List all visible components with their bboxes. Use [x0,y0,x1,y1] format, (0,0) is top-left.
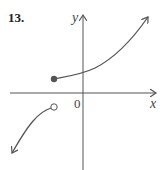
open-endpoint [51,104,57,110]
problem-number: 13. [8,10,24,25]
x-axis-label: x [149,96,157,111]
origin-label: 0 [74,96,81,111]
y-axis-label: y [70,10,79,25]
piecewise-graph: 13. y x 0 [0,0,165,170]
filled-endpoint [51,76,57,82]
right-branch-curve [54,17,148,79]
left-branch-curve [12,108,51,153]
